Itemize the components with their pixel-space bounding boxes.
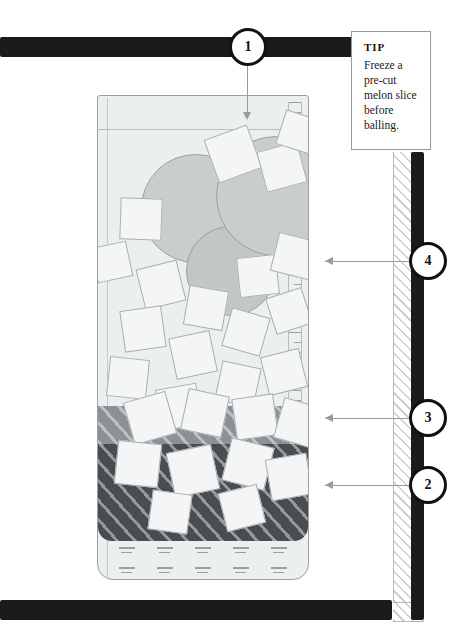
callout-3[interactable]: 3	[409, 399, 447, 437]
leader-line-3	[325, 418, 409, 419]
base-dash	[271, 567, 287, 576]
tip-body: Freeze a pre-cut melon slice before ball…	[364, 58, 420, 133]
base-dash	[157, 547, 173, 556]
base-dash	[233, 547, 249, 556]
tip-heading: TIP	[364, 41, 420, 53]
ice-cube	[106, 356, 150, 400]
ice-cube	[231, 393, 278, 440]
leader-arrow-1	[243, 112, 251, 120]
frame-bar-bottom	[0, 600, 392, 620]
ice-cube	[265, 453, 309, 502]
leader-arrow-4	[325, 257, 333, 265]
base-dash	[119, 567, 135, 576]
hatched-strip-vertical	[393, 152, 413, 602]
base-dash-row	[98, 547, 308, 556]
base-dash	[119, 547, 135, 556]
glass-body	[97, 95, 309, 580]
ice-cube	[168, 330, 218, 380]
base-dash	[195, 547, 211, 556]
leader-arrow-3	[325, 414, 333, 422]
callout-1[interactable]: 1	[229, 28, 267, 66]
ice-cube	[147, 489, 192, 534]
leader-line-2	[325, 485, 409, 486]
tip-box: TIP Freeze a pre-cut melon slice before …	[351, 31, 431, 150]
base-dash	[195, 567, 211, 576]
base-dash	[233, 567, 249, 576]
ice-cube	[119, 305, 166, 352]
callout-2[interactable]: 2	[409, 466, 447, 504]
ruler-tick	[294, 342, 301, 343]
ice-cube	[119, 197, 162, 240]
frame-bar-right	[411, 152, 424, 620]
glass-fill-line	[98, 129, 308, 130]
base-sediment-zone	[98, 541, 308, 580]
leader-line-1	[247, 66, 248, 118]
ice-cube	[166, 444, 221, 499]
base-dash	[157, 567, 173, 576]
base-dash-row	[98, 567, 308, 576]
illustration-canvas: TIP Freeze a pre-cut melon slice before …	[0, 0, 466, 641]
ice-cube	[97, 241, 133, 284]
ice-cube	[136, 260, 187, 311]
leader-arrow-2	[325, 481, 333, 489]
ice-cube	[114, 440, 162, 488]
ruler-tick	[289, 332, 301, 333]
ice-cube	[180, 388, 230, 438]
tall-drink-glass	[97, 95, 309, 580]
ruler-tick	[294, 284, 301, 285]
callout-4[interactable]: 4	[409, 242, 447, 280]
ice-cube	[183, 285, 229, 331]
leader-line-4	[325, 261, 409, 262]
base-dash	[271, 547, 287, 556]
ruler-tick	[289, 102, 301, 103]
